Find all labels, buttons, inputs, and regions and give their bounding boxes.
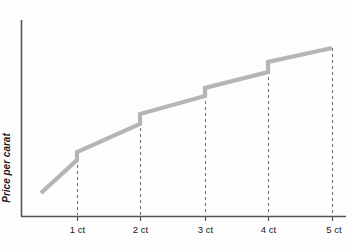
tick-label-5ct: 5 ct — [326, 224, 342, 235]
tick-label-4ct: 4 ct — [261, 224, 277, 235]
y-axis-label: Price per carat — [1, 133, 12, 203]
tick-label-2ct: 2 ct — [133, 224, 149, 235]
chart-background — [0, 0, 352, 250]
chart-figure: Price per carat 1 ct 2 ct 3 ct 4 ct 5 ct — [0, 0, 352, 250]
tick-label-3ct: 3 ct — [198, 224, 214, 235]
price-per-carat-chart: Price per carat 1 ct 2 ct 3 ct 4 ct 5 ct — [0, 0, 352, 250]
tick-label-1ct: 1 ct — [70, 224, 86, 235]
